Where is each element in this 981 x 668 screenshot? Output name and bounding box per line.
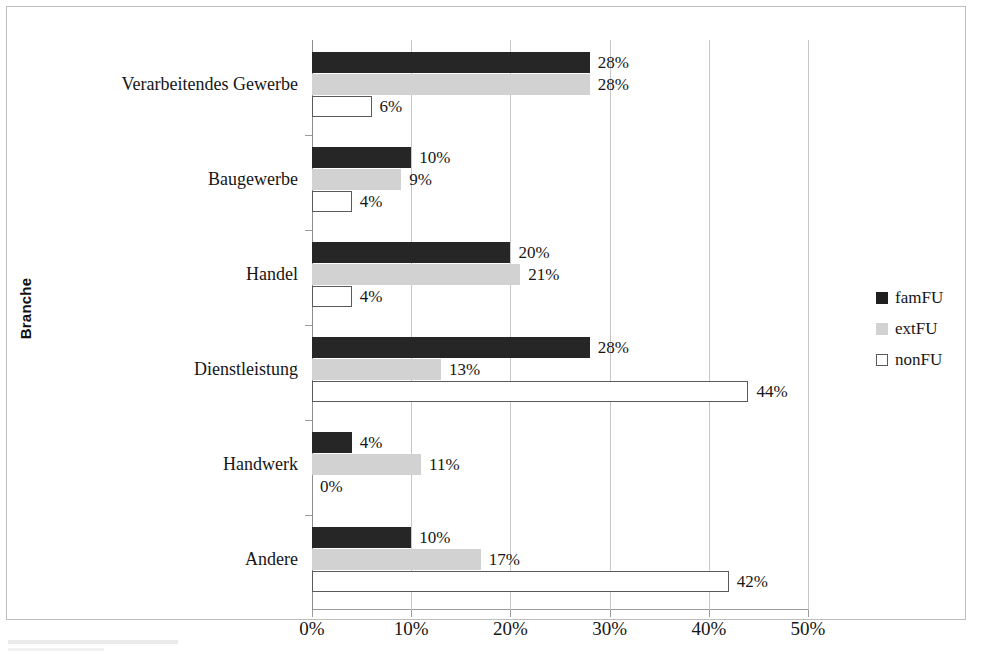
y-axis-line: [312, 40, 313, 610]
bar-row: 20%: [312, 242, 808, 263]
scan-artifact: [8, 640, 178, 644]
gridline-10%: [411, 40, 412, 610]
y-axis-tick: [305, 515, 312, 516]
bar-group-andere: 10%17%42%: [312, 527, 808, 593]
bar-value-label: 20%: [518, 243, 549, 263]
category-label-verarbeitendes-gewerbe: Verarbeitendes Gewerbe: [122, 74, 298, 95]
category-label-baugewerbe: Baugewerbe: [208, 169, 298, 190]
legend-swatch-icon-famFU: [876, 292, 888, 304]
bar-value-label: 4%: [360, 287, 383, 307]
x-axis-label-40%: 40%: [691, 618, 726, 640]
scan-artifact: [8, 648, 104, 651]
bar-extFU: [312, 169, 401, 190]
bar-nonFU: [312, 96, 372, 117]
bar-row: 6%: [312, 96, 808, 117]
y-axis-tick: [305, 135, 312, 136]
y-axis-tick: [305, 420, 312, 421]
y-axis-tick: [305, 230, 312, 231]
legend-label: nonFU: [895, 350, 942, 370]
bar-row: 9%: [312, 169, 808, 190]
x-axis-label-50%: 50%: [791, 618, 826, 640]
bar-row: 4%: [312, 191, 808, 212]
bar-famFU: [312, 527, 411, 548]
bar-value-label: 9%: [409, 170, 432, 190]
chart-legend: famFUextFUnonFU: [876, 282, 966, 375]
plot-area: 28%28%6%10%9%4%20%21%4%28%13%44%4%11%0%1…: [312, 40, 808, 610]
legend-label: extFU: [895, 319, 938, 339]
bar-extFU: [312, 359, 441, 380]
legend-label: famFU: [895, 288, 943, 308]
x-axis-label-30%: 30%: [592, 618, 627, 640]
bar-nonFU: [312, 381, 748, 402]
x-axis-label-0%: 0%: [299, 618, 324, 640]
bar-row: 4%: [312, 286, 808, 307]
category-label-handel: Handel: [246, 264, 298, 285]
legend-swatch-icon-nonFU: [876, 354, 888, 366]
bar-extFU: [312, 74, 590, 95]
bar-nonFU: [312, 191, 352, 212]
bar-row: 28%: [312, 74, 808, 95]
legend-item-extFU[interactable]: extFU: [876, 313, 966, 344]
bar-value-label: 28%: [598, 53, 629, 73]
x-axis-tick-40%: [709, 610, 710, 617]
x-axis-tick-labels: 0%10%20%30%40%50%: [312, 618, 808, 648]
bar-row: 0%: [312, 476, 808, 497]
bar-value-label: 0%: [320, 477, 343, 497]
x-axis-label-20%: 20%: [493, 618, 528, 640]
bar-row: 21%: [312, 264, 808, 285]
bar-row: 44%: [312, 381, 808, 402]
legend-swatch-icon-extFU: [876, 323, 888, 335]
legend-item-famFU[interactable]: famFU: [876, 282, 966, 313]
bar-row: 4%: [312, 432, 808, 453]
bar-value-label: 42%: [737, 572, 768, 592]
bar-value-label: 13%: [449, 360, 480, 380]
x-axis-tick-0%: [312, 610, 313, 617]
bar-row: 28%: [312, 337, 808, 358]
bar-famFU: [312, 337, 590, 358]
bar-value-label: 6%: [380, 97, 403, 117]
bar-value-label: 11%: [429, 455, 460, 475]
gridline-50%: [808, 40, 809, 610]
bar-value-label: 28%: [598, 75, 629, 95]
bar-extFU: [312, 549, 481, 570]
gridline-30%: [610, 40, 611, 610]
gridline-40%: [709, 40, 710, 610]
bar-row: 11%: [312, 454, 808, 475]
bar-group-verarbeitendes-gewerbe: 28%28%6%: [312, 52, 808, 118]
bar-group-handwerk: 4%11%0%: [312, 432, 808, 498]
x-axis-baseline: [312, 609, 808, 610]
bar-group-baugewerbe: 10%9%4%: [312, 147, 808, 213]
bar-row: 13%: [312, 359, 808, 380]
bar-chart-figure: Branche Verarbeitendes GewerbeBaugewerbe…: [0, 0, 981, 668]
bar-extFU: [312, 454, 421, 475]
category-label-handwerk: Handwerk: [223, 454, 298, 475]
bar-row: 28%: [312, 52, 808, 73]
x-axis-tick-50%: [808, 610, 809, 617]
category-label-andere: Andere: [245, 549, 298, 570]
bar-group-handel: 20%21%4%: [312, 242, 808, 308]
bar-value-label: 10%: [419, 528, 450, 548]
category-label-dienstleistung: Dienstleistung: [194, 359, 298, 380]
bar-nonFU: [312, 286, 352, 307]
bar-famFU: [312, 147, 411, 168]
bar-value-label: 17%: [489, 550, 520, 570]
bar-extFU: [312, 264, 520, 285]
x-axis-label-10%: 10%: [394, 618, 429, 640]
x-axis-tick-10%: [411, 610, 412, 617]
bar-row: 10%: [312, 527, 808, 548]
bar-row: 42%: [312, 571, 808, 592]
bar-row: 10%: [312, 147, 808, 168]
bar-famFU: [312, 432, 352, 453]
bar-group-dienstleistung: 28%13%44%: [312, 337, 808, 403]
x-axis-tick-30%: [610, 610, 611, 617]
x-axis-tick-20%: [510, 610, 511, 617]
bar-value-label: 28%: [598, 338, 629, 358]
bar-nonFU: [312, 571, 729, 592]
gridline-20%: [510, 40, 511, 610]
legend-item-nonFU[interactable]: nonFU: [876, 344, 966, 375]
bar-famFU: [312, 242, 510, 263]
bar-value-label: 44%: [756, 382, 787, 402]
bar-value-label: 10%: [419, 148, 450, 168]
bar-value-label: 4%: [360, 433, 383, 453]
bar-value-label: 21%: [528, 265, 559, 285]
